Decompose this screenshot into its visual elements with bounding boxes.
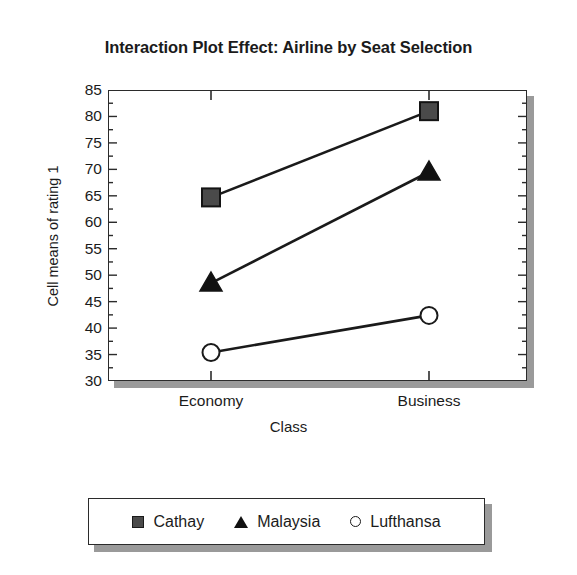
x-tick-label: Business bbox=[398, 392, 461, 410]
x-tick-label: Economy bbox=[179, 392, 244, 410]
y-tick-label: 35 bbox=[56, 347, 102, 363]
data-point-marker-lufthansa bbox=[421, 307, 438, 324]
y-tick-label: 65 bbox=[56, 188, 102, 204]
legend-label: Malaysia bbox=[257, 513, 320, 531]
data-point-marker-cathay bbox=[420, 102, 438, 120]
y-tick-label: 70 bbox=[56, 161, 102, 177]
legend-entry-lufthansa: Lufthansa bbox=[350, 513, 440, 531]
x-axis-label: Class bbox=[0, 418, 577, 435]
chart-legend: CathayMalaysiaLufthansa bbox=[88, 498, 485, 545]
plot-series-layer bbox=[108, 90, 527, 381]
legend-label: Cathay bbox=[153, 513, 204, 531]
legend-circle-icon bbox=[350, 516, 361, 527]
y-tick-label: 55 bbox=[56, 241, 102, 257]
y-tick-label: 45 bbox=[56, 294, 102, 310]
interaction-plot-figure: Interaction Plot Effect: Airline by Seat… bbox=[0, 0, 577, 575]
y-tick-label: 80 bbox=[56, 108, 102, 124]
legend-entry-cathay: Cathay bbox=[132, 513, 204, 531]
legend-label: Lufthansa bbox=[370, 513, 440, 531]
y-tick-label: 75 bbox=[56, 135, 102, 151]
legend-triangle-icon bbox=[234, 516, 248, 528]
data-point-marker-lufthansa bbox=[203, 344, 220, 361]
series-line-cathay bbox=[211, 111, 429, 197]
series-line-malaysia bbox=[211, 172, 429, 283]
y-tick-label: 30 bbox=[56, 373, 102, 389]
y-tick-label: 40 bbox=[56, 320, 102, 336]
data-point-marker-malaysia bbox=[418, 161, 440, 180]
y-tick-label: 60 bbox=[56, 214, 102, 230]
series-line-lufthansa bbox=[211, 315, 429, 352]
y-axis-tick-labels: 858075706560555045403530 bbox=[56, 0, 102, 575]
data-point-marker-cathay bbox=[202, 188, 220, 206]
legend-square-icon bbox=[132, 516, 144, 528]
legend-entry-malaysia: Malaysia bbox=[234, 513, 320, 531]
y-tick-label: 85 bbox=[56, 82, 102, 98]
data-point-marker-malaysia bbox=[200, 272, 222, 291]
y-tick-label: 50 bbox=[56, 267, 102, 283]
